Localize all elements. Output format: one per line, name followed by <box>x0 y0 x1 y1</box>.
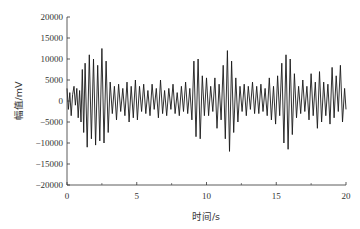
y-axis-title: 幅值/mV <box>13 81 24 120</box>
y-tick-label: 5000 <box>45 75 64 85</box>
x-tick-label: 20 <box>342 191 352 201</box>
y-tick-label: −20000 <box>35 180 63 190</box>
x-axis-title: 时间/s <box>192 211 220 222</box>
x-tick-label: 10 <box>202 191 212 201</box>
y-tick-label: −10000 <box>35 138 63 148</box>
y-tick-label: −5000 <box>40 117 64 127</box>
y-tick-label: 15000 <box>41 33 64 43</box>
line-chart: −20000−15000−10000−500005000100001500020… <box>0 0 360 229</box>
x-tick-label: 0 <box>65 191 70 201</box>
y-tick-label: 0 <box>59 96 64 106</box>
signal-line <box>67 49 346 152</box>
x-tick-label: 5 <box>135 191 140 201</box>
y-tick-label: 10000 <box>41 54 64 64</box>
x-tick-label: 15 <box>272 191 282 201</box>
x-axis: 05101520 <box>65 182 351 201</box>
y-tick-label: 20000 <box>41 12 64 22</box>
y-axis: −20000−15000−10000−500005000100001500020… <box>35 12 70 190</box>
y-tick-label: −15000 <box>35 159 63 169</box>
